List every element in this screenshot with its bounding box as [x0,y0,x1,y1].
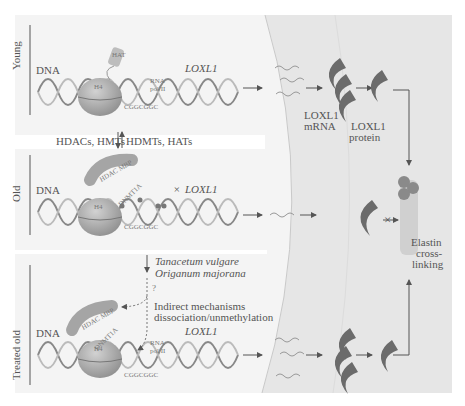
histone-label-young: H4 [94,84,103,91]
hat-label: HAT [112,52,126,59]
compound-origanum: Origanum majorana [155,268,246,279]
rna-pol-line2-treated: pol II [150,348,165,355]
protein-label-line2: protein [349,132,380,143]
histone-label-old: H4 [94,204,103,211]
gene-label-young: LOXL1 [185,63,217,74]
elastin-label-line3: linking [412,259,443,270]
rna-pol-line1-treated: RNA [150,340,165,347]
gene-label-old: LOXL1 [185,184,217,195]
transition-left-label: HDACs, HMTs [56,136,125,147]
unknown-mechanism-mark: ? [152,284,156,293]
gene-label-treated: LOXL1 [185,326,217,337]
compound-tanacetum: Tanacetum vulgare [155,256,239,267]
transition-right-label: HDMTs, HATs [126,136,192,147]
cpg-sequence-treated: CGGCGGC [124,372,158,379]
loxl1-epigenetic-diagram: Young Old Treated old DNA H4 HAT RNA pol… [0,0,465,406]
blocked-crosslink-mark: × [384,213,391,226]
row-label-young: Young [10,41,22,70]
mrna-label-line2: mRNA [304,121,336,132]
row-label-old: Old [10,186,22,203]
cpg-sequence-old: CGGCGGC [124,224,158,231]
dna-label-young: DNA [36,65,60,76]
dna-label-old: DNA [36,185,60,196]
cpg-sequence-young: CGGCGGC [124,104,158,111]
rna-pol-line2-young: pol II [150,86,165,93]
dna-label-treated: DNA [36,328,60,339]
rna-pol-line1-young: RNA [150,78,165,85]
loxl1-blocked-prefix: × [173,184,180,195]
row-label-treated-old: Treated old [10,330,22,380]
mechanism-line2: dissociation/unmethylation [154,312,273,323]
